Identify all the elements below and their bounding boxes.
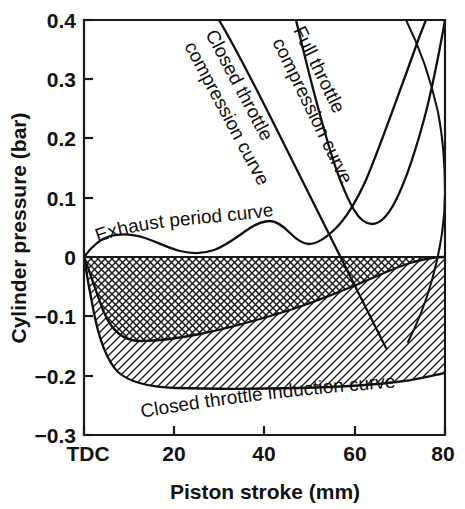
- y-tick-label-neg-0-2: −0.2: [35, 365, 76, 388]
- x-tick-label-40: 40: [252, 442, 275, 465]
- y-axis-tick-labels: 0.4 0.3 0.2 0.1 0 −0.1 −0.2 −0.3: [35, 9, 77, 447]
- x-axis-tick-labels: TDC 20 40 60 80: [66, 442, 454, 465]
- x-tick-label-80: 80: [431, 442, 454, 465]
- exhaust-period-label: Exhaust period curve: [92, 199, 274, 246]
- x-tick-label-60: 60: [343, 442, 366, 465]
- x-tick-label-tdc: TDC: [66, 442, 109, 465]
- y-tick-label-0-2: 0.2: [47, 127, 76, 150]
- y-tick-label-0-3: 0.3: [47, 68, 76, 91]
- fill-regions: [84, 257, 445, 389]
- x-axis-title: Piston stroke (mm): [170, 480, 360, 503]
- y-axis-title: Cylinder pressure (bar): [7, 112, 30, 343]
- y-tick-label-0: 0: [64, 246, 76, 269]
- y-axis-ticks: [84, 20, 93, 435]
- x-axis-ticks: [84, 426, 445, 435]
- x-tick-label-20: 20: [162, 442, 185, 465]
- cylinder-pressure-chart: 0.4 0.3 0.2 0.1 0 −0.1 −0.2 −0.3 TDC 20 …: [0, 0, 465, 509]
- exhaust-period-label-text: Exhaust period curve: [92, 199, 274, 246]
- chart-figure: 0.4 0.3 0.2 0.1 0 −0.1 −0.2 −0.3 TDC 20 …: [0, 0, 465, 509]
- y-tick-label-neg-0-1: −0.1: [35, 305, 77, 328]
- y-tick-label-0-1: 0.1: [47, 187, 77, 210]
- y-tick-label-0-4: 0.4: [47, 9, 77, 32]
